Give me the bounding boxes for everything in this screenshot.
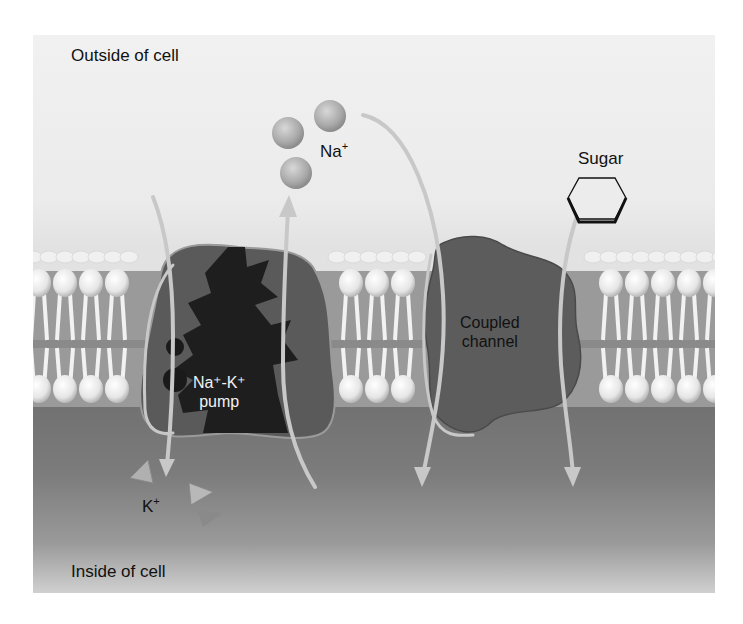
inside-of-cell-label: Inside of cell bbox=[71, 562, 166, 582]
pump-label-line1: Na⁺-K⁺ bbox=[193, 373, 245, 392]
diagram-frame: Outside of cell Inside of cell Na+ K+ Su… bbox=[33, 35, 715, 593]
sugar-label: Sugar bbox=[578, 149, 623, 169]
outside-of-cell-label: Outside of cell bbox=[71, 46, 179, 66]
sugar-molecule bbox=[568, 178, 626, 222]
potassium-charge: + bbox=[153, 495, 159, 507]
pump-label-line2: pump bbox=[193, 392, 245, 411]
channel-label-line1: Coupled bbox=[460, 313, 520, 332]
sodium-label: Na+ bbox=[320, 140, 348, 162]
pump-label: Na⁺-K⁺ pump bbox=[193, 373, 245, 411]
channel-label-line2: channel bbox=[460, 332, 520, 351]
sodium-charge: + bbox=[342, 140, 348, 152]
potassium-ions bbox=[130, 460, 223, 527]
sodium-symbol: Na bbox=[320, 142, 342, 161]
channel-label: Coupled channel bbox=[460, 313, 520, 351]
potassium-symbol: K bbox=[142, 497, 153, 516]
diagram-graphics bbox=[33, 35, 715, 593]
potassium-label: K+ bbox=[142, 495, 160, 517]
